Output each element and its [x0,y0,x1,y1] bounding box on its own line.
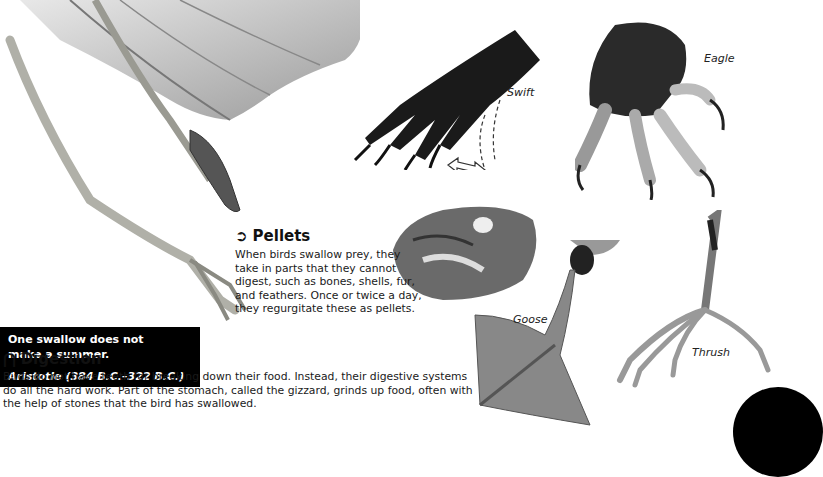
pellets-heading-text: Pellets [253,227,311,245]
pellets-heading: ➲ Pellets [235,227,310,245]
pellets-body: When birds swallow prey, they take in pa… [235,248,425,316]
label-eagle: Eagle [704,52,735,65]
eagle-foot-illustration [575,15,745,200]
thrush-foot-illustration [610,210,780,390]
label-goose: Goose [513,313,547,326]
arrow-right-circle-icon: ➲ [235,227,248,245]
label-swift: Swift [507,86,534,99]
page-corner-decoration [733,387,823,477]
goose-foot-illustration [470,235,630,430]
digestion-heading: ⋂ Digestion [3,350,101,368]
digestion-heading-text: Digestion [21,350,102,368]
label-thrush: Thrush [692,346,730,359]
digestion-body: Birds do not have teeth for breaking dow… [3,370,483,411]
info-drop-icon: ⋂ [3,350,16,368]
